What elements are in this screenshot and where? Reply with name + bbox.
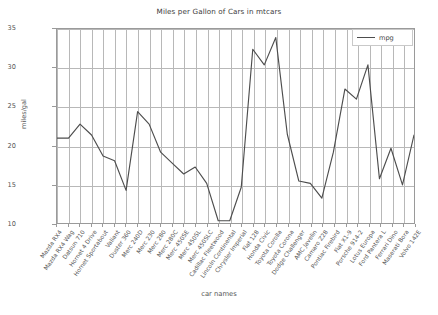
x-tick-mark	[149, 224, 150, 227]
y-tick-label: 15	[8, 181, 16, 189]
y-axis-label: miles/gal	[20, 74, 28, 154]
y-tick-label: 35	[8, 24, 16, 32]
x-tick-mark	[403, 224, 404, 227]
x-tick-mark	[415, 224, 416, 227]
x-tick-mark	[334, 224, 335, 227]
y-tick-label: 30	[8, 63, 16, 71]
x-tick-mark	[160, 224, 161, 227]
x-tick-mark	[288, 224, 289, 227]
x-tick-mark	[218, 224, 219, 227]
x-tick-mark	[56, 224, 57, 227]
x-axis-label: car names	[0, 290, 438, 298]
x-tick-mark	[346, 224, 347, 227]
x-tick-mark	[114, 224, 115, 227]
x-tick-mark	[264, 224, 265, 227]
x-tick-mark	[369, 224, 370, 227]
x-tick-mark	[172, 224, 173, 227]
plot-area	[56, 28, 415, 224]
x-tick-mark	[91, 224, 92, 227]
y-tick-label: 25	[8, 102, 16, 110]
x-tick-mark	[311, 224, 312, 227]
x-tick-mark	[299, 224, 300, 227]
x-tick-mark	[241, 224, 242, 227]
legend-line-swatch-mpg	[357, 37, 375, 39]
x-tick-mark	[125, 224, 126, 227]
x-tick-mark	[392, 224, 393, 227]
x-tick-mark	[230, 224, 231, 227]
legend-label-mpg: mpg	[379, 34, 394, 42]
x-tick-mark	[380, 224, 381, 227]
x-tick-mark	[322, 224, 323, 227]
x-tick-mark	[195, 224, 196, 227]
x-tick-mark	[207, 224, 208, 227]
x-tick-mark	[79, 224, 80, 227]
x-tick-mark	[102, 224, 103, 227]
matplotlib-figure: Miles per Gallon of Cars in mtcars miles…	[0, 0, 438, 315]
y-tick-label: 10	[8, 220, 16, 228]
x-tick-mark	[253, 224, 254, 227]
chart-legend: mpg	[352, 29, 413, 46]
x-tick-mark	[137, 224, 138, 227]
x-tick-mark	[68, 224, 69, 227]
x-tick-mark	[276, 224, 277, 227]
chart-title: Miles per Gallon of Cars in mtcars	[0, 7, 438, 16]
x-tick-mark	[357, 224, 358, 227]
x-tick-mark	[183, 224, 184, 227]
mpg-line-series	[57, 29, 414, 224]
y-tick-label: 20	[8, 142, 16, 150]
